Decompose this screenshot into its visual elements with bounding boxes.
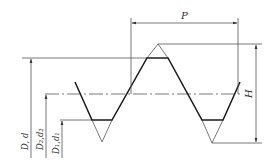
height-label: H <box>243 89 254 99</box>
major-diameter-label: D, d <box>20 132 30 151</box>
minor-diameter-label: D₁,d₁ <box>51 132 61 155</box>
major-diameter-dimension: D, d <box>20 59 31 158</box>
pitch-diameter-label: D₂,d₂ <box>35 128 45 151</box>
pitch-diameter-dimension: D₂,d₂ <box>35 95 46 158</box>
pitch-label: P <box>180 10 188 21</box>
pitch-dimension: P <box>131 10 238 94</box>
height-dimension: H <box>243 45 256 142</box>
thread-profile-diagram: P H D, d D₂,d₂ D₁,d₁ <box>0 0 272 166</box>
minor-diameter-dimension: D₁,d₁ <box>51 121 62 158</box>
thread-profile <box>75 44 240 143</box>
